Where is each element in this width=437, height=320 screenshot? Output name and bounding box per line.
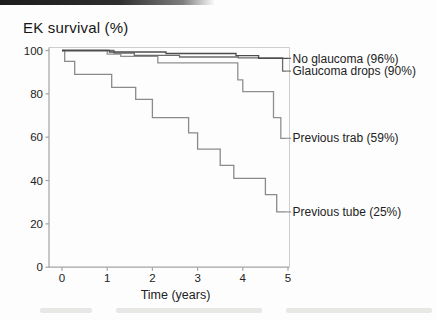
curve-no-glaucoma xyxy=(62,51,288,59)
y-tick-label: 0 xyxy=(37,261,43,273)
x-tick-label: 3 xyxy=(194,272,200,284)
x-tick-label: 2 xyxy=(149,272,155,284)
scanned-figure: EK survival (%) 012345Time (years)100806… xyxy=(0,0,437,320)
y-tick-label: 40 xyxy=(30,175,43,187)
x-tick-label: 1 xyxy=(104,272,110,284)
series-label-previous-tube: Previous tube (25%) xyxy=(293,205,402,219)
curve-previous-trab xyxy=(62,51,287,139)
x-tick-label: 4 xyxy=(240,272,247,284)
x-axis-title: Time (years) xyxy=(141,288,211,302)
curve-previous-tube xyxy=(62,51,287,212)
series-label-previous-trab: Previous trab (59%) xyxy=(293,131,399,145)
series-label-no-glaucoma: No glaucoma (96%) xyxy=(293,52,399,66)
y-tick-label: 60 xyxy=(30,131,43,143)
y-tick-label: 20 xyxy=(30,218,43,230)
series-label-glaucoma-drops: Glaucoma drops (90%) xyxy=(293,64,416,78)
x-tick-label: 5 xyxy=(285,272,291,284)
y-tick-label: 80 xyxy=(30,88,43,100)
y-tick-label: 100 xyxy=(24,45,43,57)
x-tick-label: 0 xyxy=(59,272,65,284)
plot-area-border xyxy=(49,48,290,268)
km-survival-chart: 012345Time (years)100806040200Previous t… xyxy=(0,0,437,320)
